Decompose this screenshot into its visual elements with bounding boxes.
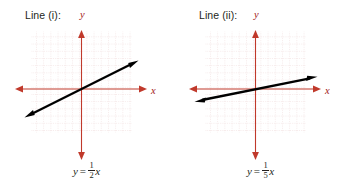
equation-fraction-ii: 15 <box>262 161 268 179</box>
line-arrow-upper-right-ii <box>306 76 317 81</box>
line-arrow-lower-left-ii <box>195 98 206 103</box>
equation-equals-i: = <box>80 165 86 177</box>
equation-line-i: y=12x <box>0 161 173 179</box>
fraction-numerator-i: 1 <box>88 161 94 170</box>
equation-rhs-variable-i: x <box>95 165 100 177</box>
fraction-numerator-ii: 1 <box>262 161 268 170</box>
x-axis-arrow-right <box>139 86 147 93</box>
y-axis-label-line-ii: y <box>254 9 259 21</box>
chart-panel-line-i: Line (i): y x y=12x <box>0 0 173 190</box>
equation-line-ii: y=15x <box>174 161 347 179</box>
plot-area-line-ii <box>174 22 347 167</box>
fraction-denominator-ii: 5 <box>262 170 268 180</box>
plot-area-line-i <box>0 22 173 167</box>
equation-fraction-i: 12 <box>88 161 94 179</box>
equation-rhs-variable-ii: x <box>269 165 274 177</box>
panel-title-line-i: Line (i): <box>25 9 61 22</box>
x-axis-arrow-left <box>15 86 23 93</box>
equation-equals-ii: = <box>254 165 260 177</box>
fraction-denominator-i: 2 <box>88 170 94 180</box>
equation-lhs-i: y <box>73 165 78 177</box>
y-axis-arrow-down <box>78 152 85 160</box>
y-axis-label-line-i: y <box>80 9 85 21</box>
x-axis-arrow-right <box>313 86 321 93</box>
x-axis-arrow-left <box>189 86 197 93</box>
equation-lhs-ii: y <box>247 165 252 177</box>
y-axis-arrow-down <box>252 152 259 160</box>
panel-title-line-ii: Line (ii): <box>199 9 237 22</box>
chart-panel-line-ii: Line (ii): y x y=15x <box>174 0 347 190</box>
